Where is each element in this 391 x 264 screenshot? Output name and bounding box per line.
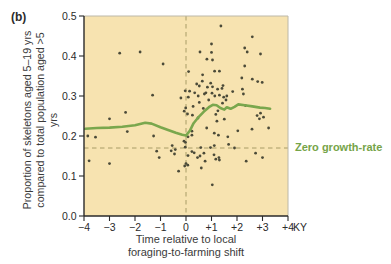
x-tick-label: −4	[78, 221, 90, 233]
scatter-point	[213, 153, 216, 156]
scatter-point	[205, 127, 208, 130]
scatter-point	[94, 136, 97, 139]
scatter-point	[199, 51, 202, 54]
x-axis-title-line-1: Time relative to local	[84, 233, 288, 246]
scatter-point	[256, 114, 259, 117]
scatter-point	[139, 51, 142, 54]
zero-growth-rate-label: Zero growth-rate	[295, 141, 382, 153]
scatter-point	[251, 78, 254, 81]
x-tick-label: 0	[183, 221, 189, 233]
scatter-point	[124, 111, 127, 114]
scatter-point	[223, 118, 226, 121]
scatter-point	[209, 82, 212, 85]
scatter-point	[225, 99, 228, 102]
scatter-point	[196, 156, 199, 159]
scatter-point	[183, 165, 186, 168]
scatter-point	[243, 65, 246, 68]
figure-panel: (b) Proportion of skeletons aged 5–19 yr…	[0, 0, 391, 264]
scatter-point	[193, 151, 196, 154]
scatter-point	[152, 135, 155, 138]
scatter-point	[118, 52, 121, 55]
scatter-point	[213, 70, 216, 73]
scatter-point	[242, 93, 245, 96]
scatter-point	[187, 70, 190, 73]
scatter-point	[251, 35, 254, 38]
scatter-point	[174, 148, 177, 151]
scatter-point	[187, 154, 190, 157]
scatter-point	[201, 80, 204, 83]
scatter-point	[225, 95, 228, 98]
x-tick-label: +1	[206, 221, 218, 233]
scatter-point	[233, 147, 236, 150]
scatter-point	[210, 51, 213, 54]
x-tick-label: −3	[104, 221, 116, 233]
scatter-point	[226, 135, 229, 138]
scatter-point	[245, 160, 248, 163]
scatter-point	[151, 94, 154, 97]
y-tick-label: 0.3	[62, 90, 77, 102]
scatter-point	[259, 112, 262, 115]
scatter-point	[217, 134, 220, 137]
scatter-point	[192, 105, 195, 108]
scatter-point	[251, 128, 254, 131]
x-tick-label: −1	[155, 221, 167, 233]
scatter-point	[126, 130, 129, 133]
scatter-point	[186, 113, 189, 116]
scatter-point	[193, 91, 196, 94]
scatter-point	[88, 159, 91, 162]
x-axis-title-line-2: foraging-to-farming shift	[84, 246, 288, 259]
y-tick-label: 0.1	[62, 170, 77, 182]
scatter-point	[243, 47, 246, 50]
x-tick-label: −2	[129, 221, 141, 233]
scatter-point	[261, 81, 264, 84]
scatter-point	[221, 87, 224, 90]
scatter-point	[213, 144, 216, 147]
scatter-point	[108, 162, 111, 165]
scatter-point	[207, 99, 210, 102]
scatter-point	[216, 88, 219, 91]
scatter-point	[220, 25, 223, 28]
scatter-point	[211, 59, 214, 62]
scatter-point	[170, 149, 173, 152]
scatter-point	[171, 144, 174, 147]
x-tick-label: +2	[231, 221, 243, 233]
scatter-point	[158, 156, 161, 159]
scatter-point	[199, 155, 202, 158]
scatter-point	[246, 51, 249, 54]
scatter-point	[198, 85, 201, 88]
scatter-point	[213, 95, 216, 98]
scatter-point	[218, 94, 221, 97]
scatter-point	[202, 107, 205, 110]
scatter-point	[108, 117, 111, 120]
scatter-point	[206, 86, 209, 89]
scatter-point	[198, 101, 201, 104]
scatter-point	[213, 132, 216, 135]
x-axis-unit-label: KY	[293, 221, 307, 233]
scatter-point	[256, 80, 259, 83]
y-tick-label: 0.4	[62, 50, 77, 62]
scatter-point	[218, 159, 221, 162]
scatter-point	[214, 113, 217, 116]
scatter-point	[231, 90, 234, 93]
y-tick-label: 0.5	[62, 10, 77, 22]
scatter-point	[173, 153, 176, 156]
scatter-point	[227, 143, 230, 146]
scatter-point	[267, 127, 270, 130]
scatter-point	[191, 134, 194, 137]
scatter-point	[241, 88, 244, 91]
y-tick-label: 0.0	[62, 210, 77, 222]
scatter-point	[240, 77, 243, 80]
scatter-point	[187, 96, 190, 99]
scatter-point	[200, 167, 203, 170]
y-tick-label: 0.2	[62, 130, 77, 142]
scatter-point	[261, 156, 264, 159]
scatter-point	[177, 170, 180, 173]
scatter-point	[218, 156, 221, 159]
scatter-point	[216, 120, 219, 123]
x-tick-label: +3	[257, 221, 269, 233]
scatter-point	[211, 183, 214, 186]
scatter-point	[222, 84, 225, 87]
scatter-point	[211, 85, 214, 88]
scatter-point	[201, 73, 204, 76]
scatter-point	[218, 70, 221, 73]
